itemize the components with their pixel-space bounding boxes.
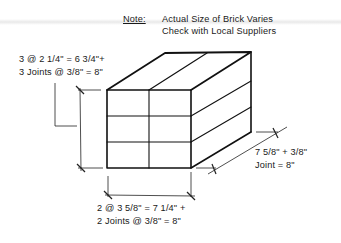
width-dimension-line	[105, 195, 195, 196]
width-dimension-label-line-2: 2 Joints @ 3/8" = 8"	[97, 215, 181, 227]
brick-cube	[107, 52, 251, 168]
depth-dimension-label-line-1: 7 5/8" + 3/8"	[255, 146, 307, 158]
right-face-bottom-edge	[191, 132, 251, 168]
depth-dimension-label-line-2: Joint = 8"	[255, 159, 295, 171]
depth-tick-front	[212, 164, 216, 174]
right-bed-joint-1	[191, 81, 251, 116]
note-line-1: Actual Size of Brick Varies	[162, 13, 273, 25]
note-label: Note:	[123, 13, 146, 25]
height-dimension-label-line-1: 3 @ 2 1/4" = 6 3/4"+	[19, 53, 105, 65]
height-leader-line	[55, 83, 77, 126]
note-line-2: Check with Local Suppliers	[162, 25, 276, 37]
height-dimension-line	[80, 88, 81, 171]
width-dimension-label-line-1: 2 @ 3 5/8" = 7 1/4" +	[97, 202, 185, 214]
brick-module-diagram: Note: Actual Size of Brick Varies Check …	[0, 0, 341, 243]
height-dimension-label-line-2: 3 Joints @ 3/8" = 8"	[19, 66, 103, 78]
